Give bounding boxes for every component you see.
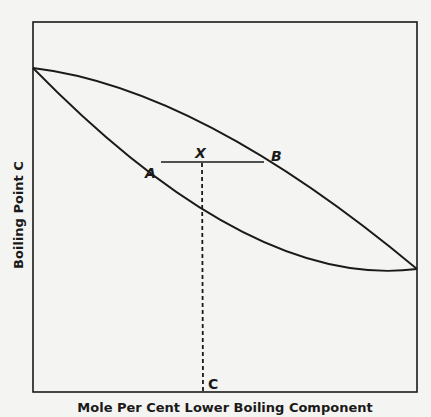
point-label-b: B (271, 148, 282, 164)
point-label-c: C (208, 376, 218, 392)
composition-dashed-line (202, 163, 203, 392)
plot-frame (33, 22, 417, 392)
point-label-a: A (144, 165, 156, 181)
liquid-curve (33, 68, 417, 271)
phase-diagram: A X B C Mole Per Cent Lower Boiling Comp… (0, 0, 431, 417)
point-label-x: X (194, 145, 207, 161)
y-axis-label: Boiling Point C (11, 161, 26, 269)
vapor-curve (33, 68, 417, 269)
x-axis-label: Mole Per Cent Lower Boiling Component (77, 400, 372, 415)
